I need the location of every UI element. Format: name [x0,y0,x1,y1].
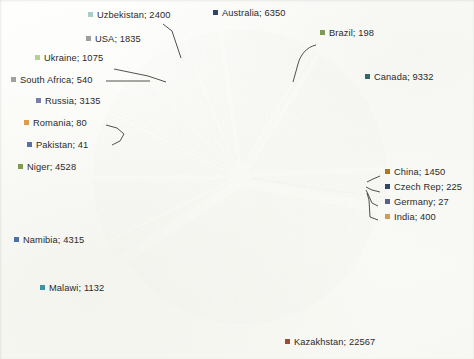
label-malawi[interactable]: Malawi; 1132 [40,283,104,294]
label-australia[interactable]: Australia; 6350 [213,8,286,19]
label-romania[interactable]: Romania; 80 [24,118,87,129]
label-canada[interactable]: Canada; 9332 [365,72,434,83]
swatch-india [385,214,390,219]
swatch-czech-rep [385,184,390,189]
swatch-south-africa [11,77,16,82]
label-uzbekistan[interactable]: Uzbekistan; 2400 [88,10,170,21]
swatch-uzbekistan [88,12,93,17]
swatch-brazil [320,30,325,35]
swatch-germany [385,199,390,204]
pie-slices-group[interactable]: Australia; 6350Brazil; 198Canada; 9332Ch… [93,30,387,324]
swatch-pakistan [27,142,32,147]
label-india[interactable]: India; 400 [385,212,436,223]
swatch-kazakhstan [285,339,290,344]
swatch-australia [213,10,218,15]
swatch-canada [365,74,370,79]
swatch-ukraine [35,55,40,60]
pie-chart-figure: Australia; 6350Brazil; 198Canada; 9332Ch… [0,0,474,359]
swatch-romania [24,120,29,125]
swatch-usa [86,36,91,41]
swatch-niger [18,164,23,169]
label-pakistan[interactable]: Pakistan; 41 [27,140,88,151]
label-niger[interactable]: Niger; 4528 [18,162,76,173]
label-russia[interactable]: Russia; 3135 [36,96,100,107]
label-usa[interactable]: USA; 1835 [86,34,141,45]
label-kazakhstan[interactable]: Kazakhstan; 22567 [285,337,375,348]
label-germany[interactable]: Germany; 27 [385,197,449,208]
label-namibia[interactable]: Namibia; 4315 [14,235,84,246]
swatch-namibia [14,237,19,242]
swatch-russia [36,98,41,103]
label-czech-rep[interactable]: Czech Rep; 225 [385,182,462,193]
label-brazil[interactable]: Brazil; 198 [320,28,374,39]
swatch-china [385,169,390,174]
label-ukraine[interactable]: Ukraine; 1075 [35,53,103,64]
label-south-africa[interactable]: South Africa; 540 [11,75,93,86]
swatch-malawi [40,285,45,290]
label-china[interactable]: China; 1450 [385,167,445,178]
